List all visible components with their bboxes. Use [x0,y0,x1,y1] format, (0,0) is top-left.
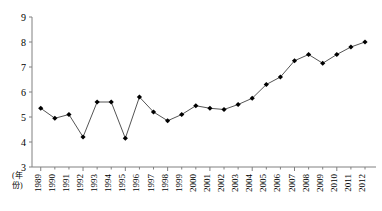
data-point [193,103,198,108]
data-series-line [41,42,365,138]
data-point [221,107,226,112]
data-point [109,99,114,104]
data-point [362,39,367,44]
data-point [207,106,212,111]
line-chart: 3456789 19891990199119921993199419951996… [0,0,382,211]
x-tick-label: 2004 [244,174,254,193]
x-tick-label: 1994 [103,174,113,193]
x-tick-label: 2005 [258,174,268,193]
x-tick-label: 2001 [202,174,212,192]
y-tick-label: 9 [21,12,26,23]
x-tick-label: 1992 [75,174,85,192]
x-tick-label: 2007 [287,174,297,193]
data-point [334,52,339,57]
x-tick-label: 2006 [272,174,282,193]
x-tick-label: 2002 [216,174,226,192]
x-tick-label: 2012 [357,174,367,192]
x-tick-label: 1990 [47,174,57,193]
x-tick-label: 1995 [117,174,127,193]
x-tick-label: 2008 [301,174,311,193]
data-point [179,112,184,117]
x-axis-label-line1: (年 [12,170,23,180]
x-tick-label: 1989 [33,174,43,193]
x-tick-label: 1996 [131,174,141,193]
x-tick-label: 2009 [315,174,325,193]
data-point [66,112,71,117]
y-tick-label: 5 [21,112,26,123]
plot-frame [32,17,376,167]
x-tick-label: 1998 [160,174,170,193]
data-point [123,136,128,141]
x-tick-label: 2011 [343,174,353,192]
data-point [80,134,85,139]
y-tick-label: 4 [21,137,26,148]
x-tick-label: 1997 [146,174,156,193]
y-tick-label: 8 [21,37,26,48]
data-point [95,99,100,104]
x-tick-label: 1999 [174,174,184,193]
x-axis-tick-labels: 1989199019911992199319941995199619971998… [33,174,367,193]
data-point [348,44,353,49]
x-tick-label: 2010 [329,174,339,193]
x-axis-label-line2: 份) [12,180,23,190]
data-point [320,61,325,66]
x-tick-label: 2003 [230,174,240,193]
y-axis-tick-labels: 3456789 [21,12,26,173]
data-point [165,118,170,123]
y-tick-label: 7 [21,62,26,73]
data-point [236,102,241,107]
y-tick-label: 6 [21,87,26,98]
x-tick-label: 1991 [61,174,71,192]
data-point [306,52,311,57]
chart-canvas: 3456789 19891990199119921993199419951996… [0,0,382,211]
x-axis-ticks [41,167,365,171]
x-tick-label: 1993 [89,174,99,193]
x-tick-label: 2000 [188,174,198,193]
